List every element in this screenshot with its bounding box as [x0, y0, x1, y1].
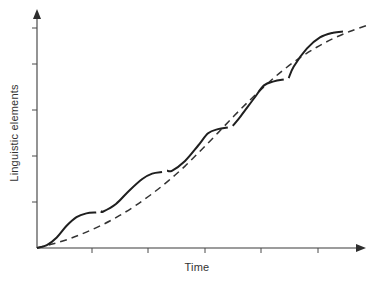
x-axis-label: Time [185, 261, 210, 273]
chart-svg: Time Linguistic elements [0, 0, 384, 281]
chart-figure: Time Linguistic elements [0, 0, 384, 281]
y-axis-label: Linguistic elements [8, 84, 20, 182]
